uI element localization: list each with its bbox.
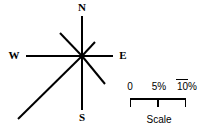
wind-rose-figure: N S W E 0 5% 10% Scale xyxy=(0,0,208,131)
scale-tick-label-0: 0 xyxy=(122,82,138,92)
scale-tick-label-5: 5% xyxy=(148,82,170,92)
scale-bar-graphic xyxy=(0,0,208,131)
scale-bar-caption: Scale xyxy=(130,114,188,125)
scale-tick-label-10: 10% xyxy=(173,82,201,92)
